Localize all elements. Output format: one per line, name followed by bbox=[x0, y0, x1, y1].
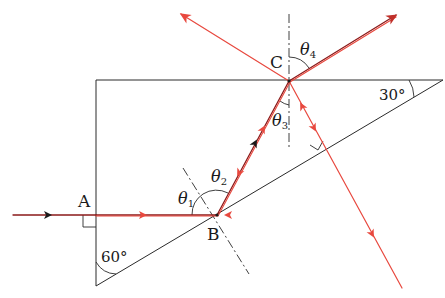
hypotenuse-face bbox=[96, 80, 443, 286]
ray-B-to-C-red bbox=[218, 82, 290, 216]
right-angle-markers bbox=[83, 141, 323, 227]
prism-outline bbox=[96, 80, 443, 286]
prism-ray-diagram: A B C 60° 30° θ1 θ2 θ3 θ4 bbox=[0, 0, 445, 298]
label-A: A bbox=[77, 191, 91, 211]
point-C-dot bbox=[287, 79, 290, 82]
right-angle-marker-A bbox=[83, 215, 96, 227]
label-B: B bbox=[207, 224, 220, 244]
label-C: C bbox=[270, 52, 283, 72]
label-angle-30: 30° bbox=[379, 86, 406, 104]
label-theta4: θ4 bbox=[300, 40, 316, 60]
diagram-canvas: A B C 60° 30° θ1 θ2 θ3 θ4 bbox=[0, 0, 445, 298]
arrow-left-A-icon bbox=[224, 211, 232, 219]
ray-C-to-exit bbox=[289, 81, 402, 288]
label-theta3: θ3 bbox=[272, 111, 288, 131]
right-angle-marker-hypotenuse bbox=[310, 141, 323, 150]
arrow-reflected-icon bbox=[177, 9, 192, 23]
arc-theta3 bbox=[280, 101, 289, 105]
arrow-down-C-exit-icon bbox=[309, 123, 320, 134]
point-B-dot bbox=[215, 213, 218, 216]
angle-arcs bbox=[96, 57, 414, 274]
arc-theta2 bbox=[203, 190, 228, 194]
arrow-up-C-exit-icon bbox=[297, 101, 308, 112]
arc-30 bbox=[409, 80, 414, 97]
ray-B-to-C bbox=[217, 81, 289, 215]
arrow-exit-outside-icon bbox=[367, 229, 378, 240]
rays bbox=[13, 14, 402, 288]
label-theta2: θ2 bbox=[211, 167, 227, 187]
label-theta1: θ1 bbox=[178, 189, 194, 209]
label-angle-60: 60° bbox=[101, 248, 128, 266]
